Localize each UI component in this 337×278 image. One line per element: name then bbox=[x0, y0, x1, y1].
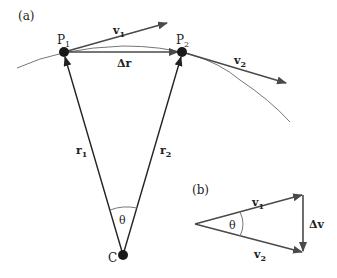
theta-label-b: θ bbox=[229, 219, 236, 232]
delta-v-label: Δv bbox=[309, 218, 325, 231]
delta-r-label: Δr bbox=[117, 57, 132, 70]
theta-label-a: θ bbox=[119, 214, 126, 227]
theta-arc-a bbox=[110, 207, 137, 210]
v1-arrow-b bbox=[195, 195, 302, 224]
v1-label-a: v1 bbox=[112, 24, 125, 39]
r1-label: r1 bbox=[76, 144, 87, 159]
p2-label: P2 bbox=[176, 33, 189, 49]
r2-arrow bbox=[123, 57, 181, 255]
r2-label: r2 bbox=[160, 144, 171, 159]
point-c bbox=[118, 250, 128, 260]
kinematics-diagram: (a) θ P1 P2 C v1 Δr v2 r1 r2 (b) θ v1 v2… bbox=[0, 0, 337, 278]
v2-label-b: v2 bbox=[253, 248, 266, 263]
theta-arc-b bbox=[240, 212, 243, 236]
c-label: C bbox=[108, 251, 117, 265]
v2-label-a: v2 bbox=[233, 54, 246, 69]
panel-a-label: (a) bbox=[18, 9, 35, 23]
v1-label-b: v1 bbox=[251, 196, 264, 211]
r1-arrow bbox=[65, 57, 123, 255]
p1-label: P1 bbox=[57, 33, 70, 49]
trajectory-curve bbox=[17, 46, 290, 122]
panel-b-label: (b) bbox=[192, 183, 209, 197]
v2-arrow-b bbox=[195, 224, 302, 252]
